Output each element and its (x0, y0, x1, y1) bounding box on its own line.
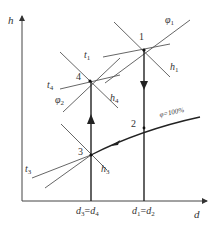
label-t1: t1 (84, 49, 91, 62)
label-h4: h4 (110, 92, 119, 105)
label-phi2: φ2 (55, 94, 65, 107)
point-1-label: 1 (139, 31, 144, 42)
label-t4: t4 (47, 79, 54, 92)
tick-d3-d4: d3=d4 (76, 205, 99, 218)
isoline-t1 (103, 44, 170, 57)
point-4 (88, 79, 91, 82)
point-3-label: 3 (78, 146, 83, 157)
label-phi1: φ1 (165, 14, 175, 27)
point-2-label: 2 (131, 118, 136, 129)
point-1 (142, 48, 145, 51)
point-3 (89, 153, 92, 156)
saturation-curve (91, 117, 200, 155)
point-3-isolines (32, 124, 107, 188)
point-2 (143, 127, 146, 130)
arrow-down-icon (140, 81, 148, 90)
x-axis-label: d (194, 208, 200, 220)
label-h1: h1 (170, 61, 179, 74)
arrow-up-icon (87, 114, 95, 124)
h-d-diagram: h d 1 2 3 4 t1 φ1 h1 t4 φ2 h4 t3 h3 φ=10… (0, 0, 219, 234)
tick-d1-d2: d1=d2 (132, 205, 155, 218)
label-saturation: φ=100% (159, 106, 185, 119)
saturation-arrow-icon (111, 140, 120, 146)
y-axis-label: h (8, 14, 14, 26)
isoline-t3 (32, 155, 91, 178)
isoline-extra (45, 155, 91, 188)
label-h3: h3 (101, 163, 110, 176)
label-t3: t3 (25, 163, 32, 176)
point-4-label: 4 (76, 71, 81, 82)
